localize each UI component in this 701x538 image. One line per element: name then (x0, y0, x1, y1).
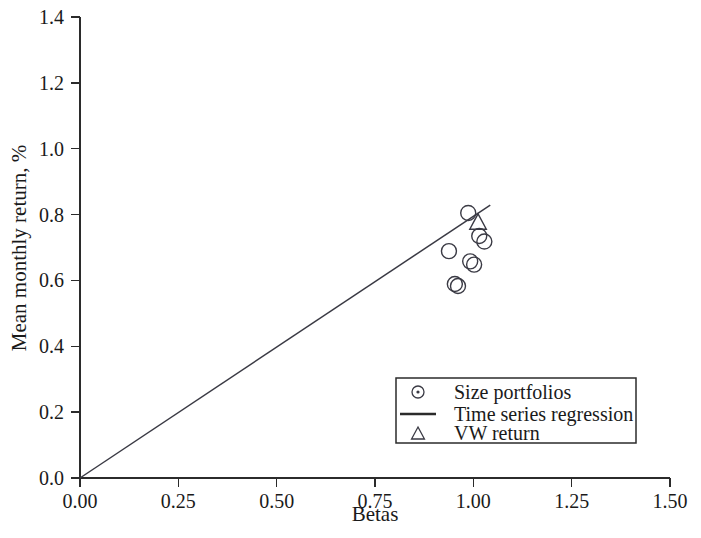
x-tick-label: 1.00 (456, 490, 491, 512)
legend-circle-dot-icon (416, 390, 419, 393)
y-tick-label: 0.0 (39, 467, 64, 489)
x-tick-label: 1.25 (554, 490, 589, 512)
scatter-plot: 0.000.250.500.751.001.251.50 0.00.20.40.… (0, 0, 701, 538)
y-tick-label: 1.2 (39, 72, 64, 94)
x-tick-label: 0.00 (63, 490, 98, 512)
y-tick-label: 0.8 (39, 204, 64, 226)
x-tick-label: 1.50 (653, 490, 688, 512)
size-portfolio-marker (463, 254, 478, 269)
y-axis-tick-labels: 0.00.20.40.60.81.01.21.4 (39, 6, 64, 489)
size-portfolio-marker (461, 205, 476, 220)
legend-item-label: Size portfolios (454, 381, 571, 404)
y-tick-label: 0.4 (39, 335, 64, 357)
y-tick-label: 0.2 (39, 401, 64, 423)
y-tick-label: 1.0 (39, 138, 64, 160)
x-tick-label: 0.50 (259, 490, 294, 512)
size-portfolio-marker (441, 244, 456, 259)
x-tick-label: 0.25 (161, 490, 196, 512)
x-axis-label: Betas (352, 502, 399, 526)
chart-figure: 0.000.250.500.751.001.251.50 0.00.20.40.… (0, 0, 701, 538)
size-portfolio-marker (467, 257, 482, 272)
y-tick-label: 1.4 (39, 6, 64, 28)
chart-legend: Size portfoliosTime series regressionVW … (396, 378, 636, 444)
y-tick-label: 0.6 (39, 269, 64, 291)
y-axis-label: Mean monthly return, % (7, 145, 31, 351)
legend-item-label: VW return (454, 422, 540, 444)
data-markers (441, 205, 491, 293)
